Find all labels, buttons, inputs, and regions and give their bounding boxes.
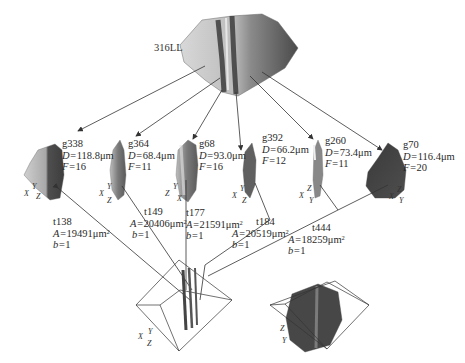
grain-diameter: 66.2μm [277, 144, 309, 155]
twin-label-t444: t444 A=18259μm2 b=1 [288, 222, 345, 257]
twin-label-t149: t149 A=20406μm2 b=1 [130, 206, 187, 241]
grain-diameter: 118.8μm [77, 150, 114, 161]
grain-id: g392 [262, 132, 309, 144]
grain-faces: 12 [276, 155, 287, 166]
grain-id: g260 [325, 135, 372, 147]
grain-diameter: 68.4μm [143, 150, 175, 161]
grain-faces: 16 [213, 161, 224, 172]
parent-grain-label: 316LL [154, 42, 183, 53]
grain-label-g338: g338 D=118.8μm F=16 [62, 138, 114, 173]
grain-id: g364 [128, 138, 175, 150]
grain-label-g68: g68 D=93.0μm F=16 [199, 138, 246, 173]
twin-id: t138 [53, 216, 110, 228]
twin-b: 1 [244, 239, 249, 250]
twin-id: t149 [130, 206, 187, 218]
grain-faces: 16 [76, 161, 87, 172]
grain-faces: 20 [417, 162, 428, 173]
grain-id: g68 [199, 138, 246, 150]
grain-faces: 11 [142, 161, 152, 172]
twin-label-t184: t184 A=20519μm2 b=1 [232, 216, 289, 251]
grain-diameter: 73.4μm [340, 147, 372, 158]
twin-id: t444 [288, 222, 345, 234]
grain-diameter: 116.4μm [418, 151, 455, 162]
grain-id: g70 [403, 139, 455, 151]
grain-g260-shape [313, 140, 323, 198]
grain-id: g338 [62, 138, 114, 150]
grain-g68-shape [176, 140, 198, 202]
twin-box-left [136, 260, 232, 351]
twin-area: 18259μm [302, 234, 342, 245]
grain-label-g70: g70 D=116.4μm F=20 [403, 139, 455, 174]
grain-diameter: 93.0μm [214, 150, 246, 161]
twin-area: 19491μm [67, 228, 107, 239]
twin-b: 1 [300, 245, 305, 256]
twin-area: 20406μm [144, 218, 184, 229]
twin-area: 20519μm [246, 228, 286, 239]
grain-g338-shape [24, 144, 64, 200]
twin-b: 1 [65, 239, 70, 250]
twin-b: 1 [198, 230, 203, 241]
twin-label-t138: t138 A=19491μm2 b=1 [53, 216, 110, 251]
grain-twin-diagram: 316LL g338 D=118.8μm F=16 g364 D=68.4μm … [0, 0, 465, 363]
grain-label-g392: g392 D=66.2μm F=12 [262, 132, 309, 167]
twin-b: 1 [144, 229, 149, 240]
grain-label-g260: g260 D=73.4μm F=11 [325, 135, 372, 170]
grain-label-g364: g364 D=68.4μm F=11 [128, 138, 175, 173]
twin-id: t184 [232, 216, 289, 228]
grain-faces: 11 [339, 158, 349, 169]
